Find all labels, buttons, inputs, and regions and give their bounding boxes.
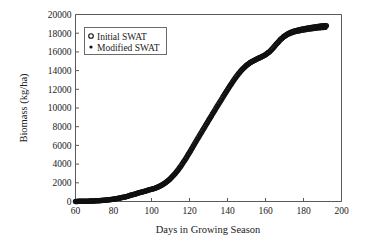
x-tick-label: 140 [220,206,235,216]
x-tick-label: 200 [334,206,349,216]
x-tick-label: 80 [109,206,119,216]
figure-container: 0200040006000800010000120001400016000180… [0,0,371,247]
x-tick-label: 100 [144,206,159,216]
y-tick-label: 14000 [48,66,72,76]
x-tick-label: 180 [296,206,311,216]
biomass-growth-chart: 0200040006000800010000120001400016000180… [0,0,371,247]
x-tick-label: 120 [182,206,197,216]
legend-marker-filled-dot-icon [89,45,92,48]
y-tick-label: 16000 [48,47,72,57]
y-tick-label: 2000 [53,178,72,188]
x-axis-title: Days in Growing Season [156,224,261,235]
y-tick-label: 8000 [53,122,72,132]
y-tick-label: 4000 [53,159,72,169]
legend-label-modified-swat: Modified SWAT [97,43,160,53]
x-tick-label: 160 [258,206,273,216]
y-tick-label: 6000 [53,141,72,151]
x-tick-label: 60 [71,206,81,216]
y-axis-title: Biomass (kg/ha) [18,73,30,143]
y-tick-label: 10000 [48,103,72,113]
legend-label-initial-swat: Initial SWAT [97,32,147,42]
y-tick-label: 12000 [48,85,72,95]
data-point [325,27,328,30]
y-tick-label: 20000 [48,10,72,20]
y-tick-label: 18000 [48,29,72,39]
chart-legend: Initial SWAT Modified SWAT [85,28,167,55]
